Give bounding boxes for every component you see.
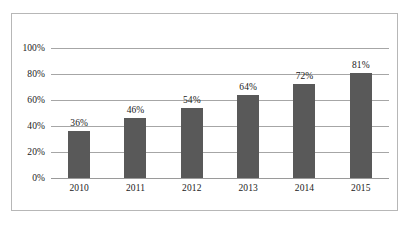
- bar-group: 81%2015: [333, 48, 389, 178]
- x-axis-tick-label: 2010: [69, 183, 88, 193]
- x-axis-tick-label: 2015: [351, 183, 370, 193]
- bar-value-label: 81%: [352, 60, 370, 70]
- bar-group: 36%2010: [51, 48, 107, 178]
- bar[interactable]: [124, 118, 146, 178]
- bar-value-label: 36%: [70, 118, 88, 128]
- y-axis-tick-label: 20%: [27, 147, 45, 157]
- y-axis-tick-label: 60%: [27, 95, 45, 105]
- chart-frame: 0%20%40%60%80%100%36%201046%201154%20126…: [11, 13, 398, 211]
- x-axis-tick-label: 2011: [126, 183, 145, 193]
- y-axis-tick-label: 100%: [22, 43, 45, 53]
- bar[interactable]: [293, 84, 315, 178]
- bar-value-label: 72%: [296, 71, 314, 81]
- x-axis-tick-label: 2012: [182, 183, 201, 193]
- y-axis-tick-label: 40%: [27, 121, 45, 131]
- x-axis-tick-label: 2013: [238, 183, 257, 193]
- bar[interactable]: [237, 95, 259, 178]
- y-axis-tick-label: 80%: [27, 69, 45, 79]
- bar-value-label: 64%: [239, 82, 257, 92]
- bar-group: 64%2013: [220, 48, 276, 178]
- bar[interactable]: [181, 108, 203, 178]
- gridline-0: [51, 178, 389, 179]
- bar[interactable]: [68, 131, 90, 178]
- bar-group: 72%2014: [276, 48, 332, 178]
- bar-value-label: 46%: [127, 105, 145, 115]
- bar-group: 46%2011: [107, 48, 163, 178]
- bar-value-label: 54%: [183, 95, 201, 105]
- plot-area: 0%20%40%60%80%100%36%201046%201154%20126…: [51, 48, 389, 178]
- y-axis-tick-label: 0%: [32, 173, 45, 183]
- x-axis-tick-label: 2014: [295, 183, 314, 193]
- bar-group: 54%2012: [164, 48, 220, 178]
- bar[interactable]: [350, 73, 372, 178]
